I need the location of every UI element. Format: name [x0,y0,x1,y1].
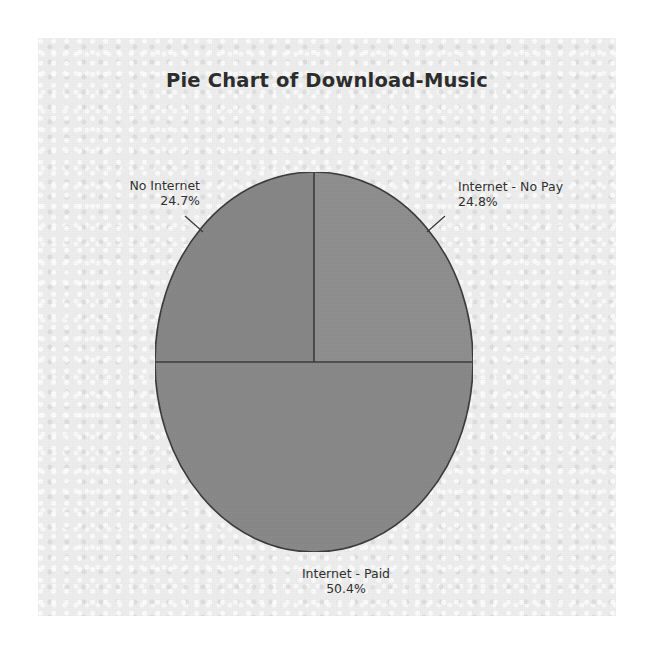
pie-label-internet-paid-name: Internet - Paid [302,566,390,581]
pie-chart [155,172,473,552]
pie-slice-internet-no-pay[interactable] [314,172,473,362]
chart-title: Pie Chart of Download-Music [38,69,616,92]
pie-label-no-internet: No Internet 24.7% [48,178,200,208]
pie-label-internet-paid-percent: 50.4% [266,581,426,596]
pie-label-no-internet-percent: 24.7% [48,193,200,208]
pie-slice-internet-paid[interactable] [155,362,473,552]
chart-panel: Pie Chart of Download-Music No Internet … [38,38,616,616]
pie-chart-svg [155,172,473,552]
leader-line-internet-no-pay [427,216,445,232]
pie-label-no-internet-name: No Internet [129,178,200,193]
pie-label-internet-no-pay-percent: 24.8% [458,194,563,209]
pie-label-internet-no-pay-name: Internet - No Pay [458,179,563,194]
pie-label-internet-no-pay: Internet - No Pay 24.8% [458,179,563,209]
leader-line-no-internet [185,216,203,232]
pie-label-internet-paid: Internet - Paid 50.4% [266,566,426,596]
